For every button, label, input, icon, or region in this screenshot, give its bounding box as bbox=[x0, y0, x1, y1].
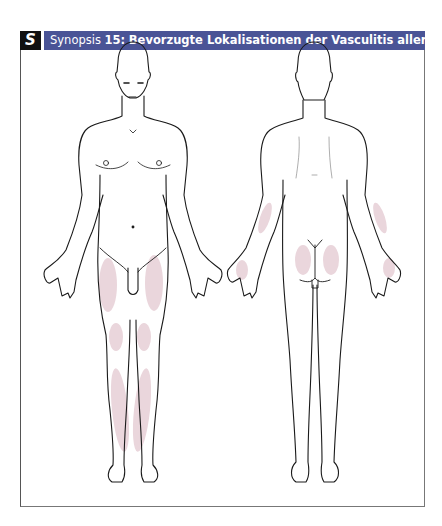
back-left-forearm-patch bbox=[255, 201, 274, 235]
front-body-outline bbox=[44, 42, 222, 482]
front-left-thigh-patch bbox=[99, 258, 117, 312]
back-head bbox=[296, 42, 333, 100]
back-left-buttock-patch bbox=[295, 245, 311, 275]
front-head bbox=[116, 42, 151, 98]
front-right-knee-patch bbox=[137, 323, 151, 351]
back-right-leg bbox=[317, 180, 347, 482]
front-right-shin-patch bbox=[130, 367, 155, 452]
highlight-regions bbox=[99, 201, 395, 452]
back-left-hand-patch bbox=[236, 260, 248, 280]
back-right-hand-patch bbox=[383, 258, 395, 278]
back-right-buttock-patch bbox=[323, 245, 339, 275]
front-left-knee-patch bbox=[109, 323, 123, 351]
front-genital bbox=[128, 268, 138, 295]
back-right-forearm-patch bbox=[370, 201, 389, 235]
front-left-shin-patch bbox=[108, 367, 133, 452]
back-body-outline bbox=[227, 42, 400, 482]
body-illustrations bbox=[0, 0, 442, 526]
back-left-leg bbox=[283, 180, 313, 482]
